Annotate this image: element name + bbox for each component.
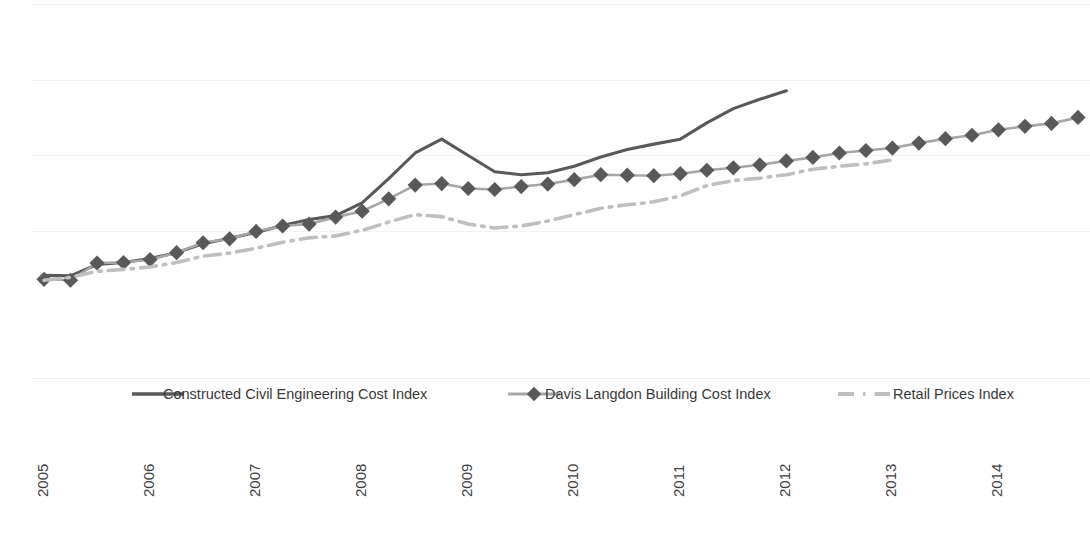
data-point-marker: [673, 166, 688, 181]
legend-swatch-marker: [527, 387, 541, 401]
x-tick-label-2005: 2005: [34, 464, 51, 497]
legend-item-1[interactable]: Davis Langdon Building Cost Index: [508, 386, 771, 402]
data-point-marker: [1044, 116, 1059, 131]
x-tick-label-2011: 2011: [670, 465, 687, 497]
x-tick-label-2009: 2009: [458, 464, 475, 497]
series-2: [44, 160, 892, 280]
data-point-marker: [169, 245, 184, 260]
x-tick-label-2007: 2007: [246, 464, 263, 497]
data-point-marker: [699, 163, 714, 178]
plot-series: [36, 91, 1085, 288]
data-point-marker: [885, 140, 900, 155]
data-point-marker: [911, 136, 926, 151]
x-axis-tick-labels: 2005200620072008200920102011201220132014: [34, 464, 1006, 497]
data-point-marker: [938, 131, 953, 146]
data-point-marker: [487, 182, 502, 197]
data-point-marker: [1017, 119, 1032, 134]
x-tick-label-2006: 2006: [140, 464, 157, 497]
data-point-marker: [567, 172, 582, 187]
data-point-marker: [408, 177, 423, 192]
data-point-marker: [540, 176, 555, 191]
legend-item-2[interactable]: Retail Prices Index: [838, 386, 1015, 402]
series-line: [44, 160, 892, 280]
data-point-marker: [726, 160, 741, 175]
data-point-marker: [964, 128, 979, 143]
data-point-marker: [646, 168, 661, 183]
data-point-marker: [832, 145, 847, 160]
data-point-marker: [461, 181, 476, 196]
x-tick-label-2012: 2012: [776, 464, 793, 497]
x-tick-label-2014: 2014: [988, 464, 1005, 497]
data-point-marker: [434, 176, 449, 191]
gridlines: [32, 5, 1090, 232]
data-point-marker: [249, 224, 264, 239]
data-point-marker: [381, 191, 396, 206]
line-chart: 2005200620072008200920102011201220132014…: [0, 0, 1090, 543]
legend-label: Constructed Civil Engineering Cost Index: [163, 386, 428, 402]
chart-container: 2005200620072008200920102011201220132014…: [0, 0, 1090, 543]
legend-item-0[interactable]: Constructed Civil Engineering Cost Index: [132, 386, 428, 402]
legend-label: Davis Langdon Building Cost Index: [545, 386, 771, 402]
data-point-marker: [593, 167, 608, 182]
data-point-marker: [514, 179, 529, 194]
series-1: [36, 110, 1085, 288]
x-tick-label-2010: 2010: [564, 464, 581, 497]
legend-label: Retail Prices Index: [893, 386, 1015, 402]
data-point-marker: [620, 168, 635, 183]
x-tick-label-2008: 2008: [352, 464, 369, 497]
data-point-marker: [195, 235, 210, 250]
chart-legend: Constructed Civil Engineering Cost Index…: [132, 386, 1015, 402]
data-point-marker: [805, 150, 820, 165]
data-point-marker: [1070, 110, 1085, 125]
data-point-marker: [752, 157, 767, 172]
x-tick-label-2013: 2013: [882, 464, 899, 497]
data-point-marker: [222, 231, 237, 246]
data-point-marker: [991, 122, 1006, 137]
